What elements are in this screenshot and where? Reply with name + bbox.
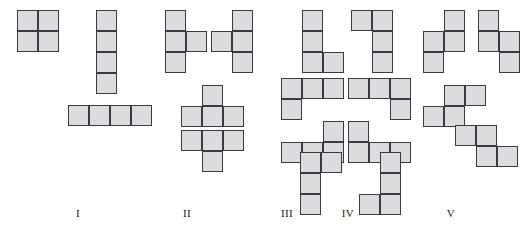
group-label-iv: IV bbox=[328, 207, 368, 219]
tetromino-cell bbox=[380, 152, 401, 173]
tetromino-cell bbox=[348, 121, 369, 142]
tetromino-cell bbox=[165, 31, 186, 52]
tetromino-cell bbox=[497, 146, 518, 167]
tetromino-cell bbox=[17, 31, 38, 52]
tetromino-cell bbox=[478, 31, 499, 52]
tetromino-cell bbox=[223, 130, 244, 151]
tetromino-cell bbox=[96, 31, 117, 52]
tetromino-cell bbox=[300, 152, 321, 173]
tetromino-cell bbox=[165, 10, 186, 31]
tetromino-cell bbox=[390, 99, 411, 120]
tetromino-cell bbox=[89, 105, 110, 126]
group-label-ii: II bbox=[167, 207, 207, 219]
tetromino-cell bbox=[380, 173, 401, 194]
tetromino-cell bbox=[348, 142, 369, 163]
tetromino-cell bbox=[17, 10, 38, 31]
tetromino-cell bbox=[281, 99, 302, 120]
tetromino-cell bbox=[165, 52, 186, 73]
tetromino-cell bbox=[110, 105, 131, 126]
tetromino-cell bbox=[232, 31, 253, 52]
tetromino-cell bbox=[423, 31, 444, 52]
tetromino-cell bbox=[476, 146, 497, 167]
tetromino-cell bbox=[300, 194, 321, 215]
tetromino-cell bbox=[499, 52, 520, 73]
tetromino-cell bbox=[202, 130, 223, 151]
tetromino-cell bbox=[300, 173, 321, 194]
tetromino-cell bbox=[465, 85, 486, 106]
tetromino-cell bbox=[281, 78, 302, 99]
tetromino-cell bbox=[211, 31, 232, 52]
tetromino-cell bbox=[186, 31, 207, 52]
tetromino-cell bbox=[372, 52, 393, 73]
tetromino-cell bbox=[181, 130, 202, 151]
tetromino-cell bbox=[323, 78, 344, 99]
tetromino-cell bbox=[302, 78, 323, 99]
tetromino-cell bbox=[455, 125, 476, 146]
tetromino-cell bbox=[321, 152, 342, 173]
tetromino-cell bbox=[202, 85, 223, 106]
tetromino-cell bbox=[444, 31, 465, 52]
tetromino-cell bbox=[372, 31, 393, 52]
tetromino-cell bbox=[348, 78, 369, 99]
tetromino-cell bbox=[302, 31, 323, 52]
group-label-v: V bbox=[431, 207, 471, 219]
tetromino-cell bbox=[390, 78, 411, 99]
tetromino-cell bbox=[444, 85, 465, 106]
tetromino-cell bbox=[302, 10, 323, 31]
tetromino-cell bbox=[232, 52, 253, 73]
tetromino-cell bbox=[202, 151, 223, 172]
tetromino-cell bbox=[232, 10, 253, 31]
tetromino-figure: IIIIIIIVV bbox=[0, 0, 529, 236]
tetromino-cell bbox=[380, 194, 401, 215]
tetromino-cell bbox=[302, 52, 323, 73]
tetromino-cell bbox=[131, 105, 152, 126]
tetromino-cell bbox=[499, 31, 520, 52]
tetromino-cell bbox=[96, 10, 117, 31]
tetromino-cell bbox=[281, 142, 302, 163]
tetromino-cell bbox=[38, 31, 59, 52]
tetromino-cell bbox=[444, 106, 465, 127]
tetromino-cell bbox=[351, 10, 372, 31]
tetromino-cell bbox=[68, 105, 89, 126]
tetromino-cell bbox=[476, 125, 497, 146]
tetromino-cell bbox=[223, 106, 244, 127]
tetromino-cell bbox=[423, 106, 444, 127]
tetromino-cell bbox=[323, 121, 344, 142]
tetromino-cell bbox=[38, 10, 59, 31]
tetromino-cell bbox=[96, 52, 117, 73]
tetromino-cell bbox=[369, 78, 390, 99]
group-label-i: I bbox=[58, 207, 98, 219]
tetromino-cell bbox=[202, 106, 223, 127]
tetromino-cell bbox=[323, 52, 344, 73]
tetromino-cell bbox=[96, 73, 117, 94]
tetromino-cell bbox=[423, 52, 444, 73]
tetromino-cell bbox=[372, 10, 393, 31]
tetromino-cell bbox=[181, 106, 202, 127]
tetromino-cell bbox=[444, 10, 465, 31]
tetromino-cell bbox=[478, 10, 499, 31]
